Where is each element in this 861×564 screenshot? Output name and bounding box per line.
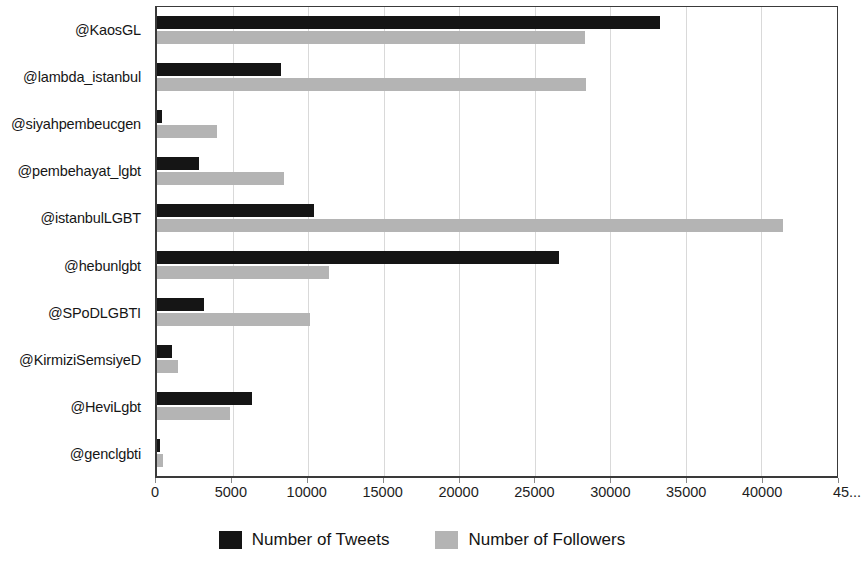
bar-group: [157, 429, 837, 476]
plot-area: [155, 6, 838, 478]
bar-followers: [157, 125, 217, 138]
bar-tweets: [157, 204, 314, 217]
bar-group: [157, 7, 837, 54]
axis-tick: [686, 478, 687, 483]
legend-swatch-followers: [435, 531, 458, 549]
bar-followers: [157, 172, 284, 185]
category-label: @siyahpembeucgen: [0, 100, 148, 147]
bar-group: [157, 148, 837, 195]
bar-followers: [157, 360, 178, 373]
bar-tweets: [157, 392, 252, 405]
bar-followers: [157, 31, 585, 44]
axis-tick-label: 40000: [742, 484, 782, 500]
bar-group: [157, 242, 837, 289]
bar-tweets: [157, 63, 281, 76]
legend-item[interactable]: Number of Tweets: [219, 530, 390, 550]
category-label: @KirmiziSemsiyeD: [0, 336, 148, 383]
axis-tick: [383, 478, 384, 483]
gridline: [837, 7, 838, 476]
axis-tick-label: 0: [151, 484, 159, 500]
bar-followers: [157, 454, 163, 467]
axis-tick-label: 35000: [666, 484, 706, 500]
bar-followers: [157, 78, 586, 91]
axis-tick-label: 10000: [287, 484, 327, 500]
category-label: @lambda_istanbul: [0, 53, 148, 100]
category-label: @istanbulLGBT: [0, 195, 148, 242]
axis-tick: [307, 478, 308, 483]
bar-followers: [157, 313, 310, 326]
axis-tick-label: 30000: [590, 484, 630, 500]
legend-item[interactable]: Number of Followers: [435, 530, 625, 550]
chart-legend: Number of TweetsNumber of Followers: [0, 530, 844, 550]
bar-tweets: [157, 298, 204, 311]
legend-label: Number of Followers: [468, 530, 625, 550]
bar-group: [157, 288, 837, 335]
bar-group: [157, 195, 837, 242]
axis-tick-label: 5000: [215, 484, 247, 500]
bar-followers: [157, 407, 230, 420]
category-label: @KaosGL: [0, 6, 148, 53]
axis-tick: [155, 478, 156, 483]
bar-group: [157, 382, 837, 429]
bar-group: [157, 101, 837, 148]
value-axis: 0500010000150002000025000300003500040000…: [155, 478, 838, 504]
category-label: @SPoDLGBTI: [0, 289, 148, 336]
axis-tick-label: 15000: [362, 484, 402, 500]
axis-tick-label: 25000: [514, 484, 554, 500]
bar-tweets: [157, 157, 199, 170]
bar-followers: [157, 219, 783, 232]
axis-tick-label: 45...: [833, 484, 861, 500]
category-label: @pembehayat_lgbt: [0, 148, 148, 195]
axis-tick: [534, 478, 535, 483]
bar-tweets: [157, 439, 160, 452]
category-label: @genclgbti: [0, 431, 148, 478]
axis-tick: [762, 478, 763, 483]
bar-followers: [157, 266, 329, 279]
category-label: @HeviLgbt: [0, 384, 148, 431]
axis-tick-label: 20000: [438, 484, 478, 500]
category-axis: @KaosGL@lambda_istanbul@siyahpembeucgen@…: [0, 6, 148, 478]
bar-tweets: [157, 345, 172, 358]
axis-tick: [459, 478, 460, 483]
bar-group: [157, 54, 837, 101]
axis-tick: [610, 478, 611, 483]
bar-tweets: [157, 251, 559, 264]
bars-layer: [157, 7, 837, 476]
axis-tick: [838, 478, 839, 483]
axis-tick: [231, 478, 232, 483]
legend-swatch-tweets: [219, 531, 242, 549]
legend-label: Number of Tweets: [252, 530, 390, 550]
bar-tweets: [157, 110, 162, 123]
bar-group: [157, 335, 837, 382]
category-label: @hebunlgbt: [0, 242, 148, 289]
bar-tweets: [157, 16, 660, 29]
